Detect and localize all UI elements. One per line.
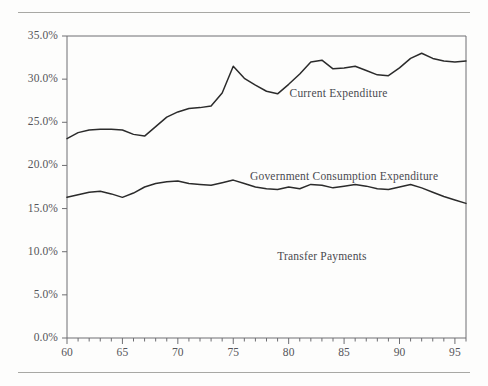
- x-tick-label: 70: [158, 346, 198, 358]
- x-tick-label: 85: [324, 346, 364, 358]
- y-tick-label: 15.0%: [0, 202, 58, 214]
- x-tick-label: 60: [47, 346, 87, 358]
- x-tick-label: 65: [102, 346, 142, 358]
- annotation-government-consumption-expenditure: Government Consumption Expenditure: [250, 170, 438, 182]
- x-tick-label: 80: [269, 346, 309, 358]
- y-tick-label: 30.0%: [0, 72, 58, 84]
- series-line-current-expenditure: [67, 53, 466, 138]
- y-tick-label: 10.0%: [0, 245, 58, 257]
- annotation-transfer-payments: Transfer Payments: [277, 250, 367, 262]
- y-axis-ticks: [62, 36, 67, 338]
- y-tick-label: 25.0%: [0, 115, 58, 127]
- x-tick-label: 95: [435, 346, 475, 358]
- y-tick-label: 0.0%: [0, 331, 58, 343]
- line-chart-plot: [0, 0, 488, 386]
- y-tick-label: 35.0%: [0, 29, 58, 41]
- x-axis-ticks: [67, 338, 466, 344]
- annotation-current-expenditure: Current Expenditure: [290, 87, 388, 99]
- y-tick-label: 20.0%: [0, 158, 58, 170]
- y-tick-label: 5.0%: [0, 288, 58, 300]
- plot-frame: [67, 36, 466, 338]
- x-tick-label: 75: [213, 346, 253, 358]
- chart-figure: 0.0%5.0%10.0%15.0%20.0%25.0%30.0%35.0% 6…: [0, 0, 488, 386]
- x-tick-label: 90: [380, 346, 420, 358]
- series-line-government-consumption-expenditure: [67, 180, 466, 203]
